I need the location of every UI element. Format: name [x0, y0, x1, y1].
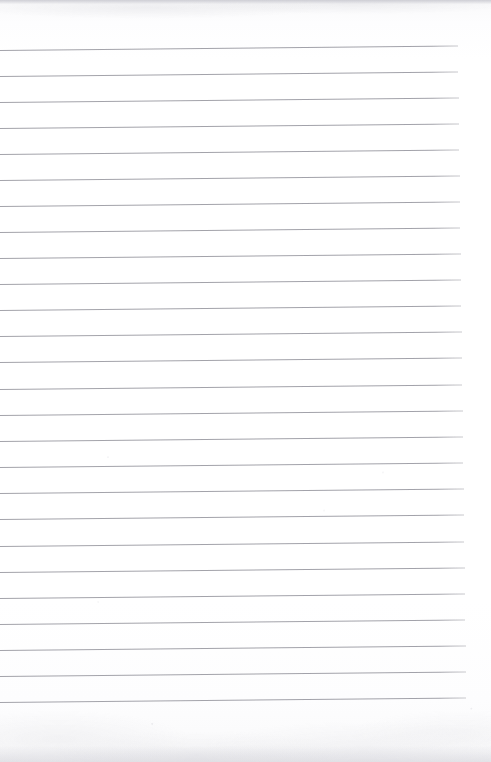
paper-sheet: [0, 0, 491, 762]
scanned-page: Blank ruled notebook page A scanned blan…: [0, 0, 491, 762]
